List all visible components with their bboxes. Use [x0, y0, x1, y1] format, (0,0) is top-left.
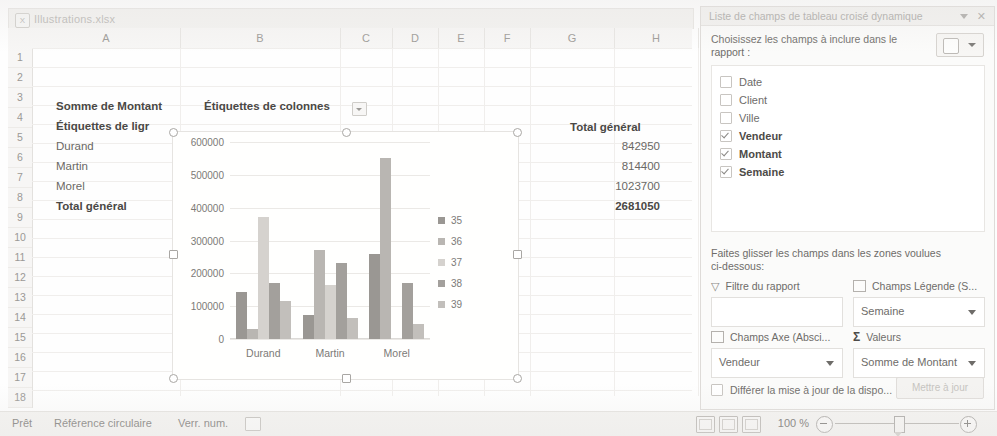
chart-resize-handle-bottom-center[interactable] [342, 374, 351, 383]
field-item-date[interactable]: Date [720, 73, 762, 90]
chart-resize-handle-top-left[interactable] [169, 128, 178, 137]
chevron-down-icon[interactable] [968, 361, 976, 366]
field-checkbox-montant[interactable] [720, 148, 732, 160]
field-item-vendeur[interactable]: Vendeur [720, 127, 782, 144]
row-header-3[interactable]: 3 [8, 88, 32, 108]
field-checkbox-semaine[interactable] [720, 166, 732, 178]
chart-legend-item[interactable]: 37 [438, 252, 510, 273]
chart-legend-item[interactable]: 38 [438, 273, 510, 294]
row-header-8[interactable]: 8 [8, 188, 32, 208]
chart-plot-area[interactable]: 6000005000004000003000002000001000000Dur… [230, 142, 430, 339]
chart-bar[interactable] [236, 292, 247, 339]
chart-resize-handle-bottom-left[interactable] [169, 374, 178, 383]
chart-bar[interactable] [325, 285, 336, 339]
pivot-column-labels-header[interactable]: Étiquettes de colonnes [204, 100, 330, 112]
field-checkbox-date[interactable] [720, 76, 732, 88]
column-header-g[interactable]: G [530, 28, 615, 48]
row-header-16[interactable]: 16 [8, 348, 32, 368]
chart-resize-handle-middle-right[interactable] [513, 250, 522, 259]
page-layout-icon[interactable] [719, 416, 738, 433]
column-labels-filter-dropdown[interactable] [352, 102, 367, 116]
record-macro-icon[interactable] [245, 417, 261, 431]
chart-bar[interactable] [347, 318, 358, 339]
row-header-18[interactable]: 18 [8, 388, 32, 408]
chart-resize-handle-middle-left[interactable] [169, 250, 178, 259]
column-header-f[interactable]: F [484, 28, 531, 48]
zoom-in-icon[interactable] [960, 416, 977, 433]
zone-legend-fields-box[interactable]: Semaine [853, 297, 985, 327]
chevron-down-icon[interactable] [826, 361, 834, 366]
chart-bar[interactable] [269, 283, 280, 339]
chart-bar[interactable] [258, 217, 269, 339]
zoom-out-icon[interactable] [816, 416, 833, 433]
column-header-a[interactable]: A [32, 28, 181, 48]
chart-resize-handle-bottom-right[interactable] [513, 374, 522, 383]
chart-legend-item[interactable]: 36 [438, 231, 510, 252]
row-header-14[interactable]: 14 [8, 308, 32, 328]
page-break-preview-icon[interactable] [742, 416, 761, 433]
pivot-value-field-label[interactable]: Somme de Montant [56, 100, 162, 112]
field-item-semaine[interactable]: Semaine [720, 163, 784, 180]
pivot-grand-total-value[interactable]: 2681050 [580, 200, 660, 212]
chart-bar[interactable] [369, 254, 380, 339]
pivot-chart[interactable]: 6000005000004000003000002000001000000Dur… [172, 131, 519, 380]
row-header-10[interactable]: 10 [8, 228, 32, 248]
pivot-row-label[interactable]: Durand [56, 140, 94, 152]
defer-layout-update-checkbox[interactable] [711, 384, 723, 396]
close-icon[interactable]: ✕ [977, 9, 986, 23]
row-header-12[interactable]: 12 [8, 268, 32, 288]
row-header-5[interactable]: 5 [8, 128, 32, 148]
row-header-9[interactable]: 9 [8, 208, 32, 228]
status-circular-reference[interactable]: Référence circulaire [54, 417, 152, 429]
zone-axis-fields-box[interactable]: Vendeur [711, 348, 843, 378]
field-item-ville[interactable]: Ville [720, 109, 760, 126]
chart-resize-handle-top-right[interactable] [513, 128, 522, 137]
row-header-11[interactable]: 11 [8, 248, 32, 268]
row-header-17[interactable]: 17 [8, 368, 32, 388]
pivot-row-total[interactable]: 842950 [580, 140, 660, 152]
normal-view-icon[interactable] [696, 416, 715, 433]
zone-report-filter-box[interactable] [711, 297, 843, 327]
row-header-15[interactable]: 15 [8, 328, 32, 348]
column-header-d[interactable]: D [392, 28, 439, 48]
chart-bar[interactable] [413, 324, 424, 339]
row-header-13[interactable]: 13 [8, 288, 32, 308]
pivot-row-total[interactable]: 1023700 [580, 180, 660, 192]
chart-resize-handle-top-center[interactable] [342, 128, 351, 137]
field-item-client[interactable]: Client [720, 91, 767, 108]
chart-bar[interactable] [380, 158, 391, 339]
pivot-row-label[interactable]: Martin [56, 160, 88, 172]
chart-bar[interactable] [314, 250, 325, 339]
field-list-layout-button[interactable] [936, 33, 984, 57]
column-header-b[interactable]: B [180, 28, 341, 48]
pivot-grand-total-header[interactable]: Total général [570, 121, 641, 133]
chart-legend[interactable]: 3536373839 [438, 210, 510, 315]
chart-bar[interactable] [280, 301, 291, 339]
chart-bar[interactable] [303, 315, 314, 339]
chart-bar[interactable] [402, 283, 413, 339]
pivot-grand-total-label[interactable]: Total général [56, 200, 127, 212]
pivot-row-labels-header[interactable]: Étiquettes de ligr [56, 120, 149, 132]
update-button[interactable]: Mettre à jour [896, 377, 984, 399]
field-checkbox-vendeur[interactable] [720, 130, 732, 142]
column-header-e[interactable]: E [438, 28, 485, 48]
row-header-7[interactable]: 7 [8, 168, 32, 188]
field-item-montant[interactable]: Montant [720, 145, 782, 162]
row-header-4[interactable]: 4 [8, 108, 32, 128]
pivot-row-total[interactable]: 814400 [580, 160, 660, 172]
row-header-2[interactable]: 2 [8, 68, 32, 88]
chart-legend-item[interactable]: 35 [438, 210, 510, 231]
zone-values-box[interactable]: Somme de Montant [853, 348, 985, 378]
chevron-down-icon[interactable] [960, 14, 968, 19]
field-checkbox-client[interactable] [720, 94, 732, 106]
view-buttons-group[interactable] [696, 416, 761, 433]
zoom-level-label[interactable]: 100 % [778, 417, 809, 429]
column-header-h[interactable]: H [614, 28, 699, 48]
row-header-1[interactable]: 1 [8, 48, 32, 68]
field-list[interactable]: DateClientVilleVendeurMontantSemaine [711, 65, 985, 232]
chart-bar[interactable] [336, 263, 347, 339]
chevron-down-icon[interactable] [968, 310, 976, 315]
chart-legend-item[interactable]: 39 [438, 294, 510, 315]
field-checkbox-ville[interactable] [720, 112, 732, 124]
column-header-c[interactable]: C [340, 28, 393, 48]
